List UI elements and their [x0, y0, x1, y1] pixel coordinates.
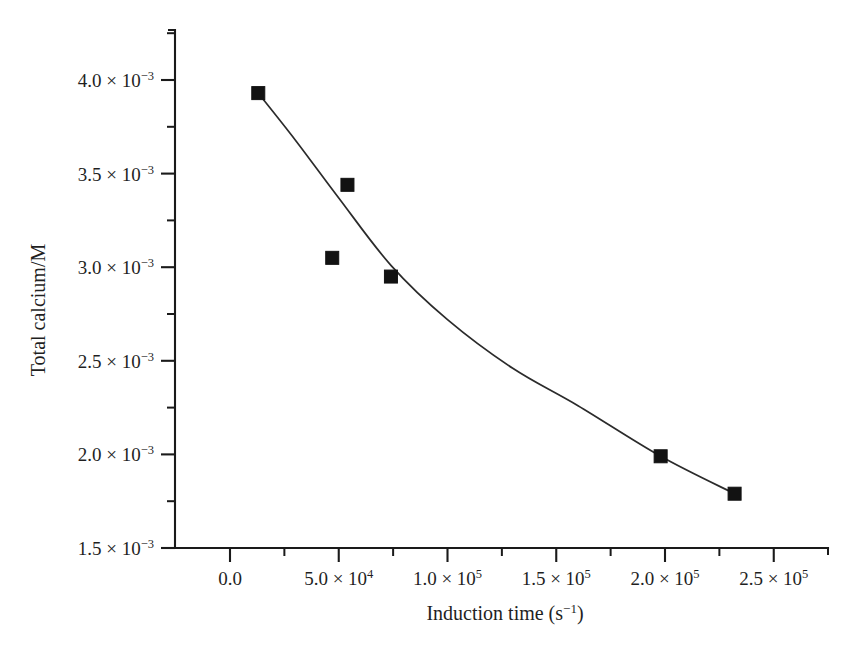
data-point-marker-5: [728, 487, 741, 500]
x-tick-label-3: 1.5 × 105: [522, 567, 591, 589]
y-tick-label-5: 4.0 × 10−3: [78, 69, 154, 91]
x-tick-labels: 0.05.0 × 1041.0 × 1051.5 × 1052.0 × 1052…: [218, 567, 808, 589]
fit-curve: [258, 93, 734, 494]
y-tick-labels: 1.5 × 10−32.0 × 10−32.5 × 10−33.0 × 10−3…: [78, 69, 154, 559]
x-tick-label-5: 2.5 × 105: [739, 567, 808, 589]
data-point-marker-1: [341, 178, 354, 191]
y-tick-label-4: 3.5 × 10−3: [78, 163, 154, 185]
data-point-marker-4: [654, 450, 667, 463]
x-axis-title: Induction time (s−1): [426, 601, 583, 625]
scatter-plot: 0.05.0 × 1041.0 × 1051.5 × 1052.0 × 1052…: [0, 0, 857, 648]
y-axis-title: Total calcium/M: [27, 244, 49, 377]
data-point-marker-3: [384, 270, 397, 283]
x-tick-label-0: 0.0: [218, 568, 242, 589]
y-tick-label-0: 1.5 × 10−3: [78, 537, 154, 559]
tick-marks: [161, 33, 774, 562]
x-tick-label-4: 2.0 × 105: [630, 567, 699, 589]
data-markers: [252, 87, 741, 501]
y-tick-label-2: 2.5 × 10−3: [78, 350, 154, 372]
figure-canvas: 0.05.0 × 1041.0 × 1051.5 × 1052.0 × 1052…: [0, 0, 857, 648]
fit-curve-path: [258, 93, 734, 494]
axes: [168, 30, 828, 555]
y-tick-label-3: 3.0 × 10−3: [78, 256, 154, 278]
x-tick-label-2: 1.0 × 105: [413, 567, 482, 589]
y-tick-label-1: 2.0 × 10−3: [78, 443, 154, 465]
data-point-marker-0: [252, 87, 265, 100]
x-tick-label-1: 5.0 × 104: [304, 567, 374, 589]
data-point-marker-2: [326, 251, 339, 264]
